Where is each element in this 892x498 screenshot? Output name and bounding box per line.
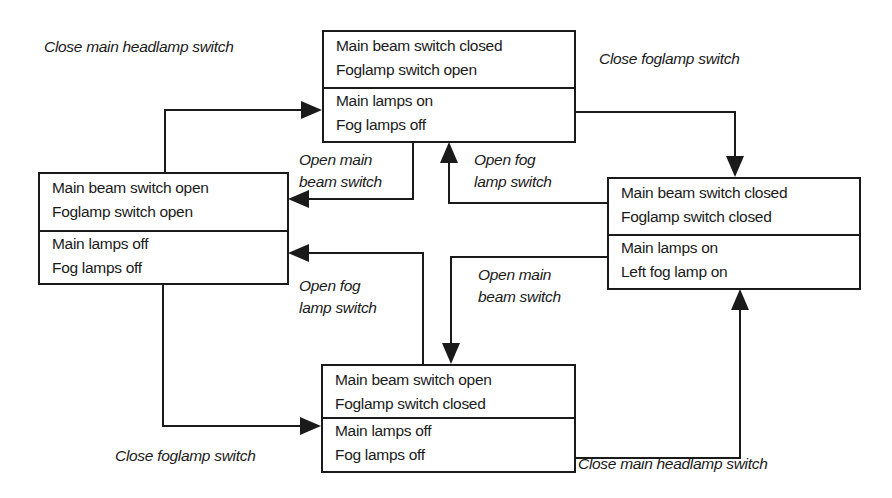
state-input-text: Main beam switch open: [52, 176, 287, 200]
state-input-text: Main beam switch closed: [621, 181, 859, 205]
transition-label-open-fog-lamp: Open fog lamp switch: [299, 275, 377, 319]
arrowhead-right-icon: [300, 417, 321, 435]
arrowhead-down-icon: [442, 343, 460, 364]
state-output-text: Fog lamps off: [335, 443, 574, 467]
transition-line-all-off-to-fog-switch: [163, 284, 307, 426]
state-box-all-off: Main beam switch open Foglamp switch ope…: [38, 172, 289, 285]
state-output-text: Main lamps off: [335, 419, 574, 443]
state-outputs: Main lamps on Fog lamps off: [324, 89, 574, 137]
label-text: Open main: [478, 264, 561, 286]
transition-label-close-foglamp: Close foglamp switch: [599, 48, 739, 70]
transition-label-open-main-beam: Open main beam switch: [478, 264, 561, 308]
state-output-text: Fog lamps off: [336, 113, 574, 137]
transition-line-fog-switch-to-fog-on: [575, 303, 740, 458]
label-text: lamp switch: [474, 171, 552, 193]
state-input-text: Main beam switch open: [335, 368, 574, 392]
state-input-text: Main beam switch closed: [336, 34, 574, 58]
state-output-text: Main lamps on: [336, 89, 574, 113]
state-input-text: Foglamp switch closed: [621, 205, 859, 229]
label-text: Open fog: [299, 275, 377, 297]
arrowhead-down-icon: [726, 156, 744, 177]
state-inputs: Main beam switch open Foglamp switch ope…: [40, 174, 287, 232]
transition-line-main-on-to-fog-on: [575, 112, 735, 163]
label-text: lamp switch: [299, 297, 377, 319]
transition-label-close-foglamp: Close foglamp switch: [115, 445, 255, 467]
label-text: Close main headlamp switch: [578, 453, 768, 475]
state-output-text: Left fog lamp on: [621, 260, 859, 284]
state-output-text: Main lamps on: [621, 236, 859, 260]
label-text: beam switch: [299, 171, 382, 193]
state-input-text: Foglamp switch open: [336, 58, 574, 82]
state-inputs: Main beam switch closed Foglamp switch c…: [609, 179, 859, 236]
arrowhead-left-icon: [288, 244, 309, 262]
arrowhead-right-icon: [301, 101, 322, 119]
label-text: Open fog: [474, 149, 552, 171]
state-box-main-on-fog-off: Main beam switch closed Foglamp switch o…: [322, 30, 576, 143]
transition-label-open-main-beam: Open main beam switch: [299, 149, 382, 193]
state-outputs: Main lamps off Fog lamps off: [40, 232, 287, 280]
arrowhead-up-icon: [731, 289, 749, 310]
state-inputs: Main beam switch open Foglamp switch clo…: [323, 366, 574, 419]
state-input-text: Foglamp switch closed: [335, 392, 574, 416]
label-text: Close main headlamp switch: [44, 36, 234, 58]
transition-label-close-main-headlamp: Close main headlamp switch: [578, 453, 768, 475]
state-box-main-on-fog-on: Main beam switch closed Foglamp switch c…: [607, 177, 861, 290]
state-output-text: Fog lamps off: [52, 256, 287, 280]
state-diagram: Main beam switch closed Foglamp switch o…: [0, 0, 892, 498]
label-text: Open main: [299, 149, 382, 171]
label-text: beam switch: [478, 286, 561, 308]
state-input-text: Foglamp switch open: [52, 200, 287, 224]
state-outputs: Main lamps off Fog lamps off: [323, 419, 574, 467]
transition-label-close-main-headlamp: Close main headlamp switch: [44, 36, 234, 58]
arrowhead-up-icon: [440, 142, 458, 163]
state-outputs: Main lamps on Left fog lamp on: [609, 236, 859, 284]
transition-label-open-fog-lamp: Open fog lamp switch: [474, 149, 552, 193]
state-box-fog-switch-only: Main beam switch open Foglamp switch clo…: [321, 364, 576, 473]
state-output-text: Main lamps off: [52, 232, 287, 256]
label-text: Close foglamp switch: [599, 48, 739, 70]
label-text: Close foglamp switch: [115, 445, 255, 467]
transition-line-all-off-to-main-on: [165, 110, 308, 172]
state-inputs: Main beam switch closed Foglamp switch o…: [324, 32, 574, 89]
